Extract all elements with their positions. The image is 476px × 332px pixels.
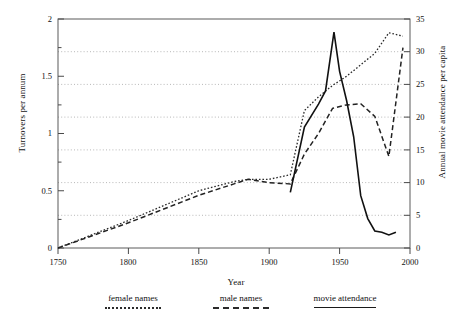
- series-female-names: [58, 33, 403, 248]
- y-right-tick-25: 25: [416, 79, 450, 89]
- x-tick-1900: 1900: [247, 257, 291, 267]
- x-tick-1850: 1850: [177, 257, 221, 267]
- y-axis-left-ticks: [58, 19, 64, 248]
- legend-item-female-names: female names: [78, 292, 188, 312]
- legend-label-female-names: female names: [78, 292, 188, 304]
- x-axis-ticks: [58, 248, 410, 254]
- y-right-tick-5: 5: [416, 210, 450, 220]
- y-left-tick-0: 0: [18, 243, 52, 253]
- legend-swatch-dotted-icon: [105, 307, 161, 312]
- y-right-tick-20: 20: [416, 112, 450, 122]
- legend-item-male-names: male names: [193, 292, 289, 312]
- x-axis-title: Year: [186, 277, 286, 287]
- y-axis-right-ticks: [404, 19, 410, 248]
- y-right-tick-30: 30: [416, 46, 450, 56]
- legend-label-movie-attendance: movie attendance: [281, 292, 409, 304]
- y-left-tick-1p5: 1.5: [18, 71, 52, 81]
- chart-figure: Turnovers per annum Annual movie attenda…: [0, 0, 476, 332]
- chart-legend: female names male names movie attendance: [0, 292, 476, 328]
- y-right-tick-15: 15: [416, 145, 450, 155]
- y-axis-left-title: Turnovers per annum: [17, 43, 27, 183]
- y-right-tick-35: 35: [416, 14, 450, 24]
- y-right-tick-10: 10: [416, 177, 450, 187]
- x-tick-2000: 2000: [388, 257, 432, 267]
- legend-label-male-names: male names: [193, 292, 289, 304]
- x-tick-1750: 1750: [36, 257, 80, 267]
- y-left-tick-2: 2: [18, 14, 52, 24]
- x-tick-1950: 1950: [318, 257, 362, 267]
- y-right-tick-0: 0: [416, 243, 450, 253]
- y-left-tick-0p5: 0.5: [18, 186, 52, 196]
- x-tick-1800: 1800: [106, 257, 150, 267]
- series-male-names: [58, 48, 403, 248]
- y-left-tick-1: 1: [18, 128, 52, 138]
- plot-frame: [58, 19, 410, 248]
- legend-swatch-dashed-icon: [213, 307, 269, 312]
- gridlines: [58, 52, 410, 216]
- legend-swatch-solid-icon: [314, 307, 376, 311]
- legend-item-movie-attendance: movie attendance: [281, 292, 409, 311]
